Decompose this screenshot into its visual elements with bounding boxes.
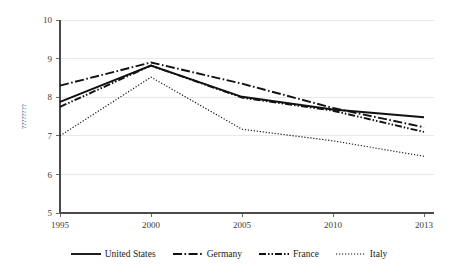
y-tick-label: 6 — [48, 170, 53, 180]
y-tick-label: 10 — [43, 15, 53, 25]
x-tick-label: 2005 — [233, 220, 252, 230]
chart-legend: United StatesGermanyFranceItaly — [0, 243, 458, 265]
legend-label: Germany — [207, 249, 242, 259]
series-line-france — [60, 66, 424, 132]
legend-label: France — [293, 249, 319, 259]
y-tick-label: 7 — [48, 131, 53, 141]
y-tick-label: 9 — [48, 54, 53, 64]
y-tick-label: 5 — [48, 208, 53, 218]
y-axis-ticks: 5678910 — [43, 15, 60, 218]
legend-label: Italy — [370, 249, 387, 259]
legend-swatch-dash-dot-dot-icon — [259, 249, 289, 259]
x-tick-label: 2010 — [324, 220, 343, 230]
legend-swatch-solid-icon — [71, 249, 101, 259]
series-line-united-states — [60, 66, 424, 118]
chart-figure: 5678910 19952000200520102013 ???????? Un… — [0, 0, 458, 275]
series-lines — [60, 62, 424, 156]
gridlines — [60, 20, 434, 213]
legend-item-italy[interactable]: Italy — [336, 249, 387, 259]
y-axis-title: ???????? — [20, 104, 28, 129]
x-tick-label: 1995 — [51, 220, 70, 230]
y-tick-label: 8 — [48, 92, 53, 102]
legend-item-germany[interactable]: Germany — [173, 249, 242, 259]
x-axis-ticks: 19952000200520102013 — [51, 213, 434, 230]
legend-item-united-states[interactable]: United States — [71, 249, 156, 259]
line-chart: 5678910 19952000200520102013 ???????? — [0, 0, 458, 275]
x-tick-label: 2013 — [415, 220, 434, 230]
legend-swatch-dotted-icon — [336, 249, 366, 259]
legend-label: United States — [105, 249, 156, 259]
series-line-germany — [60, 62, 424, 127]
legend-item-france[interactable]: France — [259, 249, 319, 259]
legend-swatch-dash-dot-icon — [173, 249, 203, 259]
x-tick-label: 2000 — [142, 220, 161, 230]
